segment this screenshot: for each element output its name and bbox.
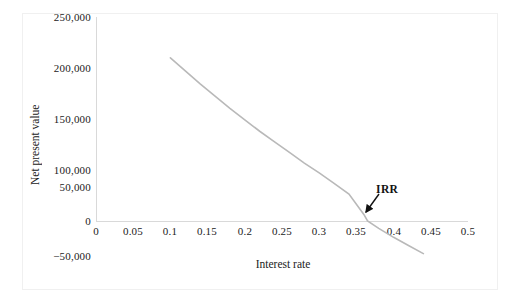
- npv-curve-line: [170, 58, 423, 254]
- irr-annotation-label: IRR: [376, 183, 398, 195]
- irr-arrow-icon: [366, 194, 379, 212]
- npv-irr-chart-figure: 250,000 200,000 150,000 100,000 50,000 0…: [0, 0, 522, 303]
- chart-canvas: [0, 0, 522, 303]
